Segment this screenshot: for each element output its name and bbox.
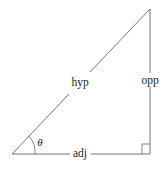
opposite-label: opp [141,74,159,87]
right-triangle-diagram: hyp opp adj θ [0,0,168,171]
hypotenuse-line [90,9,150,72]
right-angle-marker [142,144,150,154]
adjacent-label: adj [73,147,87,160]
angle-theta-label: θ [37,136,43,148]
angle-arc [29,136,35,154]
hypotenuse-label: hyp [71,76,89,89]
